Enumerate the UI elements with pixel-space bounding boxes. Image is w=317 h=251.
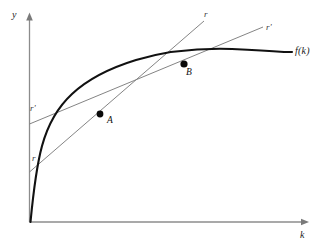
- y-axis-arrow-icon: [26, 13, 33, 21]
- point-a-marker: [97, 111, 104, 118]
- x-axis-arrow-icon: [301, 219, 309, 225]
- y-axis-label: y: [12, 10, 17, 20]
- x-axis-label: k: [300, 230, 305, 240]
- x-axis: [30, 219, 310, 225]
- ray-r-top-label: r: [204, 10, 208, 19]
- ray-r-line: [30, 21, 205, 172]
- ray-r-prime-top-label: r': [266, 23, 272, 32]
- point-b-label: B: [186, 68, 192, 78]
- diagram-svg: [0, 0, 317, 251]
- ray-r-left-label: r: [32, 154, 36, 163]
- figure-canvas: y k f(k) r r' r' r A B: [0, 0, 317, 251]
- ray-r-prime-left-label: r': [30, 104, 36, 113]
- ray-r-prime-line: [30, 27, 264, 124]
- point-a-label: A: [107, 116, 113, 126]
- function-label-fk: f(k): [295, 46, 310, 56]
- production-function-curve: [31, 49, 285, 222]
- y-axis: [26, 13, 33, 223]
